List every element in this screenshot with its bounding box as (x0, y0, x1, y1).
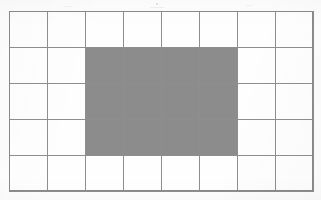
grid-cell-shaded[interactable] (162, 48, 200, 84)
grid-cell-shaded[interactable] (86, 120, 124, 156)
grid-cell-empty[interactable] (238, 120, 276, 156)
cell-grid (9, 11, 314, 192)
grid-cell-shaded[interactable] (124, 120, 162, 156)
grid-cell-empty[interactable] (276, 48, 314, 84)
grid-cell-shaded[interactable] (200, 84, 238, 120)
grid-cell-shaded[interactable] (162, 84, 200, 120)
grid-cell-empty[interactable] (124, 156, 162, 192)
grid-cell-shaded[interactable] (200, 120, 238, 156)
grid-row (10, 120, 314, 156)
grid-cell-empty[interactable] (276, 156, 314, 192)
scan-artifact-speck (156, 3, 158, 5)
grid-cell-empty[interactable] (10, 48, 48, 84)
grid-cell-empty[interactable] (10, 156, 48, 192)
grid-cell-shaded[interactable] (124, 84, 162, 120)
grid-row (10, 12, 314, 48)
grid-cell-shaded[interactable] (162, 120, 200, 156)
grid-cell-empty[interactable] (162, 12, 200, 48)
grid-cell-empty[interactable] (276, 84, 314, 120)
grid-cell-shaded[interactable] (200, 48, 238, 84)
grid-container (9, 11, 313, 191)
grid-cell-empty[interactable] (48, 156, 86, 192)
grid-cell-empty[interactable] (276, 12, 314, 48)
grid-cell-empty[interactable] (238, 84, 276, 120)
grid-row (10, 48, 314, 84)
grid-cell-empty[interactable] (10, 12, 48, 48)
grid-cell-empty[interactable] (124, 12, 162, 48)
scan-artifact-streak (246, 5, 253, 6)
grid-cell-empty[interactable] (238, 48, 276, 84)
grid-body (10, 12, 314, 192)
grid-cell-empty[interactable] (86, 156, 124, 192)
grid-row (10, 84, 314, 120)
grid-cell-empty[interactable] (238, 156, 276, 192)
grid-cell-empty[interactable] (48, 120, 86, 156)
grid-cell-empty[interactable] (10, 120, 48, 156)
grid-cell-empty[interactable] (86, 12, 124, 48)
grid-cell-empty[interactable] (162, 156, 200, 192)
grid-cell-empty[interactable] (200, 156, 238, 192)
grid-diagram-figure (0, 0, 321, 200)
grid-cell-empty[interactable] (48, 12, 86, 48)
scan-artifact-streak (63, 6, 72, 7)
grid-cell-empty[interactable] (200, 12, 238, 48)
grid-cell-empty[interactable] (238, 12, 276, 48)
scan-artifact-streak (150, 7, 164, 8)
grid-cell-shaded[interactable] (86, 48, 124, 84)
grid-cell-empty[interactable] (48, 48, 86, 84)
grid-cell-shaded[interactable] (86, 84, 124, 120)
grid-cell-empty[interactable] (276, 120, 314, 156)
grid-cell-empty[interactable] (10, 84, 48, 120)
grid-cell-shaded[interactable] (124, 48, 162, 84)
grid-cell-empty[interactable] (48, 84, 86, 120)
grid-row (10, 156, 314, 192)
